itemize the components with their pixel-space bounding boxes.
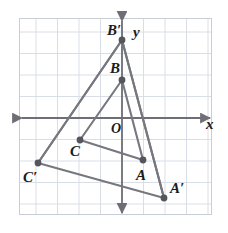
- point-A: [140, 157, 147, 164]
- geometry-figure: B′BCAC′A′xyO: [0, 0, 228, 233]
- point-B: [119, 77, 126, 84]
- label-C-prime: C′: [23, 169, 37, 185]
- label-C: C: [70, 143, 81, 159]
- label-A: A: [135, 167, 146, 183]
- label-B: B: [109, 60, 120, 76]
- origin-label: O: [111, 121, 121, 136]
- point-C-prime: [35, 160, 42, 167]
- label-B-prime: B′: [106, 22, 121, 38]
- point-A-prime: [161, 195, 168, 202]
- x-axis-label: x: [205, 116, 214, 132]
- coordinate-plane: B′BCAC′A′xyO: [0, 0, 228, 233]
- y-axis-label: y: [131, 24, 140, 40]
- label-A-prime: A′: [169, 180, 184, 196]
